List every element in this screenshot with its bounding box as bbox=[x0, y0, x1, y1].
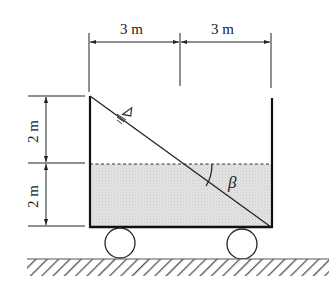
right-wheel bbox=[227, 229, 257, 259]
water-fill bbox=[90, 164, 272, 227]
left-wheel bbox=[105, 228, 135, 258]
top-left-width-label: 3 m bbox=[120, 21, 143, 37]
ground-hatch bbox=[27, 259, 329, 276]
top-dimensions bbox=[89, 33, 271, 92]
left-lower-height-label: 2 m bbox=[25, 185, 41, 208]
angle-beta-label: β bbox=[227, 173, 237, 192]
left-upper-height-label: 2 m bbox=[25, 120, 41, 143]
top-right-width-label: 3 m bbox=[211, 21, 234, 37]
tank-cart-diagram: β 3 m 3 m 2 m 2 m bbox=[0, 0, 334, 294]
